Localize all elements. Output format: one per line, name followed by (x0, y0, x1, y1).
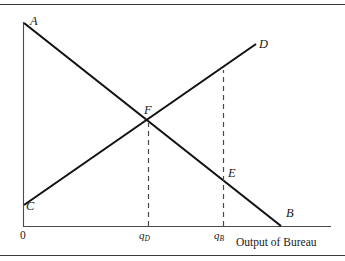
cost-line-cd (24, 44, 256, 205)
point-label-b: B (286, 207, 294, 220)
figure-container: A D F E C B 0 qD qB Output of Bureau (0, 0, 345, 261)
x-tick-label-qb: qB (214, 230, 224, 241)
point-label-f: F (144, 104, 152, 117)
x-tick-qb-subscript: B (220, 234, 225, 243)
point-label-d: D (259, 38, 268, 51)
x-tick-qd-symbol: q (139, 229, 145, 241)
x-axis-title: Output of Bureau (236, 236, 316, 248)
x-tick-qd-subscript: D (145, 234, 150, 243)
x-tick-label-qd: qD (139, 230, 150, 241)
origin-label: 0 (20, 229, 26, 241)
plot-svg (0, 0, 345, 261)
point-label-c: C (26, 200, 34, 213)
point-label-e: E (228, 167, 236, 180)
x-tick-qb-symbol: q (214, 229, 220, 241)
point-label-a: A (30, 15, 38, 28)
